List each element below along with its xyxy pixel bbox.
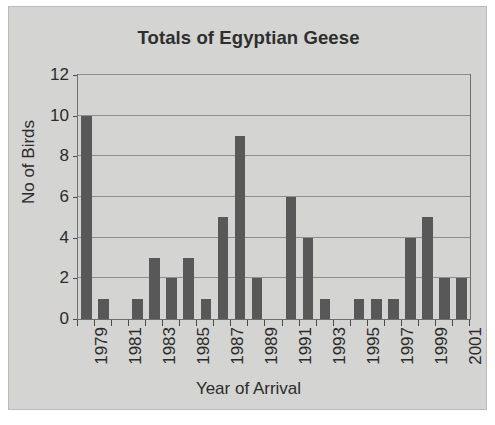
plot-area [77,74,471,320]
bar [149,258,160,319]
x-axis-tick [418,320,419,326]
bar [166,278,177,319]
x-axis-tick [452,320,453,326]
bar [183,258,194,319]
y-axis-tick-labels: 024681012 [17,74,69,320]
y-axis-tick-label: 0 [60,310,69,327]
bar [303,238,314,319]
x-axis-tick [230,320,231,326]
bar [405,238,416,319]
bar [320,299,331,319]
x-axis-ticks [77,320,471,327]
x-axis-tick-label: 1993 [331,327,348,365]
x-axis-tick [77,320,78,326]
x-axis-tick [264,320,265,326]
x-axis-tick-label: 1979 [93,327,110,365]
y-axis-tick-label: 10 [50,106,69,123]
x-axis-tick-labels: 1979198119831985198719891991199319951997… [77,327,471,387]
x-axis-tick-label: 1985 [195,327,212,365]
bar [371,299,382,319]
x-axis-tick [333,320,334,326]
x-axis-tick [196,320,197,326]
bar [235,136,246,319]
bar [132,299,143,319]
bar [422,217,433,319]
x-axis-tick [384,320,385,326]
x-axis-tick [435,320,436,326]
x-axis-tick-label: 1983 [161,327,178,365]
bar [252,278,263,319]
bar [218,217,229,319]
y-axis-tick-label: 4 [60,228,69,245]
chart-figure: Totals of Egyptian Geese No of Birds 024… [8,6,487,410]
bar [98,299,109,319]
x-axis-tick [469,320,470,326]
bar [81,116,92,319]
x-axis-tick-label: 1987 [229,327,246,365]
x-axis-tick [145,320,146,326]
y-axis-tick-label: 8 [60,147,69,164]
x-axis-tick-label: 1989 [263,327,280,365]
x-axis-tick-label: 1991 [297,327,314,365]
x-axis-tick-label: 1995 [365,327,382,365]
bar [286,197,297,319]
x-axis-tick [179,320,180,326]
x-axis-tick [401,320,402,326]
x-axis-tick [367,320,368,326]
bar [388,299,399,319]
x-axis-tick [350,320,351,326]
x-axis-tick [128,320,129,326]
bar [354,299,365,319]
x-axis-title: Year of Arrival [9,379,488,399]
y-axis-tick-label: 2 [60,269,69,286]
bar [439,278,450,319]
chart-title: Totals of Egyptian Geese [9,27,488,49]
x-axis-tick [162,320,163,326]
bar [456,278,467,319]
x-axis-tick [111,320,112,326]
x-axis-tick [282,320,283,326]
x-axis-tick-label: 1999 [433,327,450,365]
bar-series [78,75,470,319]
x-axis-tick-label: 2001 [467,327,484,365]
x-axis-tick-label: 1981 [127,327,144,365]
x-axis-tick [213,320,214,326]
x-axis-tick [299,320,300,326]
x-axis-tick-label: 1997 [399,327,416,365]
y-axis-tick-label: 6 [60,188,69,205]
x-axis-tick [316,320,317,326]
x-axis-tick [94,320,95,326]
x-axis-tick [247,320,248,326]
y-axis-tick-label: 12 [50,66,69,83]
bar [201,299,212,319]
